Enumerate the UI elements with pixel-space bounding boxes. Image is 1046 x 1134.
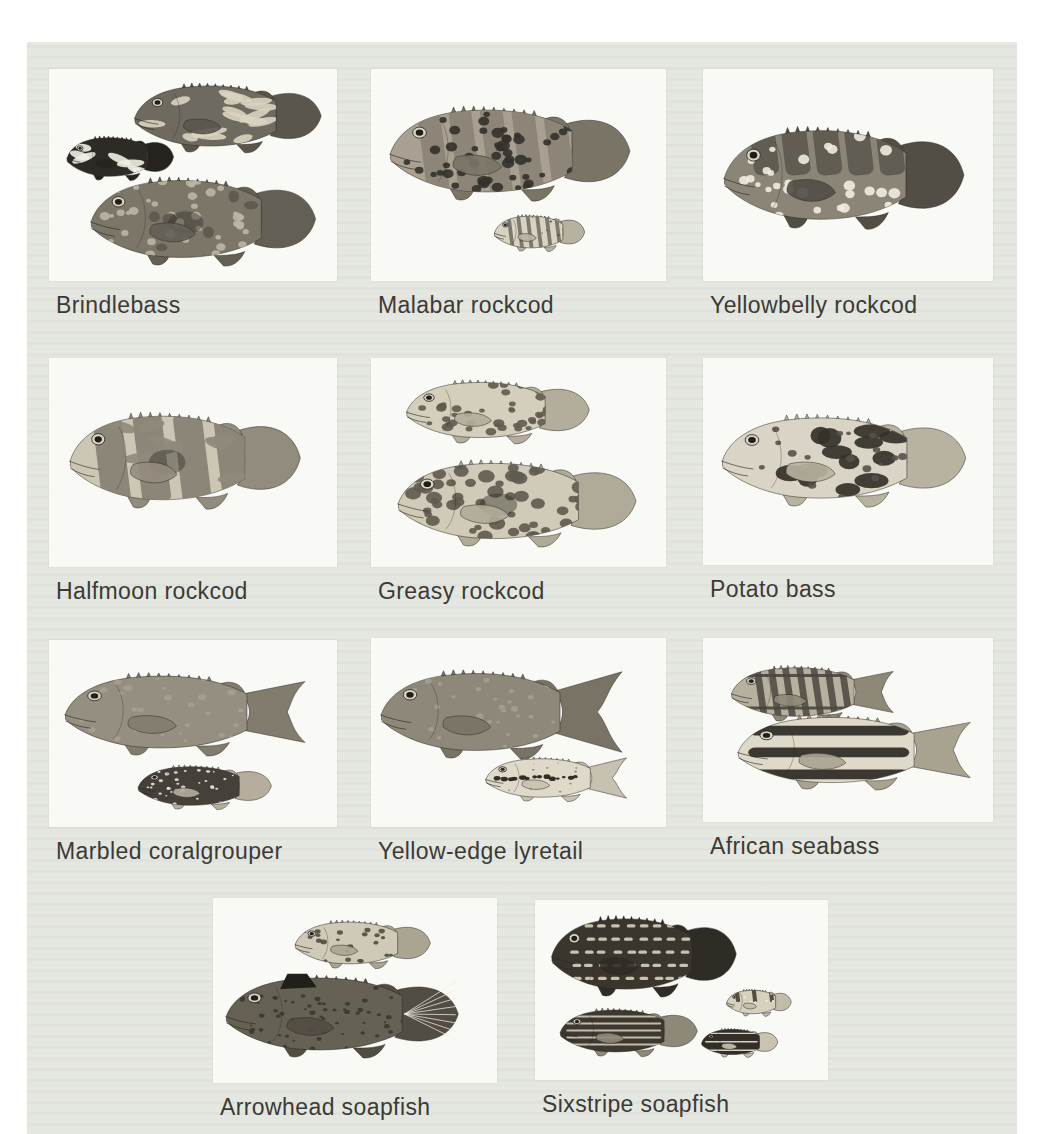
halfmoon-rockcod-illustration	[49, 358, 337, 567]
species-label-brindlebass: Brindlebass	[49, 292, 337, 320]
potato-bass-illustration	[703, 358, 993, 565]
species-panel-greasy-rockcod: Greasy rockcod	[371, 358, 666, 606]
species-label-malabar-rockcod: Malabar rockcod	[371, 292, 666, 320]
species-panel-yellow-edge-lyretail: Yellow-edge lyretail	[371, 638, 666, 866]
species-panel-arrowhead-soapfish: Arrowhead soapfish	[213, 898, 497, 1122]
species-label-african-seabass: African seabass	[703, 833, 993, 861]
species-label-arrowhead-soapfish: Arrowhead soapfish	[213, 1094, 497, 1122]
species-label-yellow-edge-lyretail: Yellow-edge lyretail	[371, 838, 666, 866]
species-label-sixstripe-soapfish: Sixstripe soapfish	[535, 1091, 828, 1119]
arrowhead-soapfish-illustration	[213, 898, 497, 1083]
species-label-halfmoon-rockcod: Halfmoon rockcod	[49, 578, 337, 606]
yellow-edge-lyretail-illustration	[371, 638, 666, 827]
african-seabass-illustration	[703, 638, 993, 822]
plate-area: Brindlebass Malabar rockcod Yellowbelly …	[27, 42, 1017, 1134]
species-label-yellowbelly-rockcod: Yellowbelly rockcod	[703, 292, 993, 320]
malabar-rockcod-illustration	[371, 69, 666, 281]
species-panel-halfmoon-rockcod: Halfmoon rockcod	[49, 358, 337, 606]
species-label-potato-bass: Potato bass	[703, 576, 993, 604]
species-label-greasy-rockcod: Greasy rockcod	[371, 578, 666, 606]
species-panel-malabar-rockcod: Malabar rockcod	[371, 69, 666, 320]
marbled-coralgrouper-illustration	[49, 640, 337, 827]
yellowbelly-rockcod-illustration	[703, 69, 993, 281]
species-panel-marbled-coralgrouper: Marbled coralgrouper	[49, 640, 337, 866]
brindlebass-illustration	[49, 69, 337, 281]
greasy-rockcod-illustration	[371, 358, 666, 567]
species-label-marbled-coralgrouper: Marbled coralgrouper	[49, 838, 337, 866]
species-panel-sixstripe-soapfish: Sixstripe soapfish	[535, 900, 828, 1119]
species-panel-brindlebass: Brindlebass	[49, 69, 337, 320]
species-panel-potato-bass: Potato bass	[703, 358, 993, 604]
sixstripe-soapfish-illustration	[535, 900, 828, 1080]
species-panel-yellowbelly-rockcod: Yellowbelly rockcod	[703, 69, 993, 320]
species-panel-african-seabass: African seabass	[703, 638, 993, 861]
